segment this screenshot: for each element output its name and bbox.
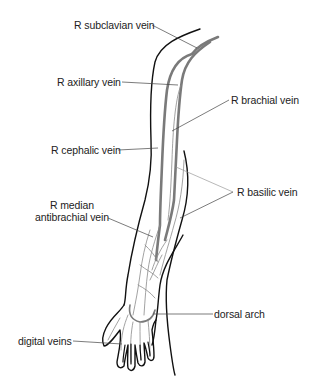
label-median-antibrachial-vein: R median antibrachial vein [34,199,110,223]
label-median-line2: antibrachial vein [34,211,110,223]
label-axillary-vein: R axillary vein [57,76,121,88]
label-cephalic-vein: R cephalic vein [51,144,121,156]
leader-subclavian [152,25,197,48]
label-median-line1: R median [34,199,110,211]
leader-basilic-upper [176,167,233,192]
leader-median [108,218,153,237]
leader-cephalic [118,148,158,150]
leader-digital [73,341,122,344]
hand-outline [103,305,156,370]
arm-outline-right [166,151,187,375]
label-brachial-vein: R brachial vein [231,94,299,106]
label-basilic-vein: R basilic vein [237,186,297,198]
label-digital-veins: digital veins [18,335,72,347]
label-subclavian-vein: R subclavian vein [74,19,155,31]
leader-basilic-lower [180,192,233,218]
label-dorsal-arch: dorsal arch [214,308,265,320]
